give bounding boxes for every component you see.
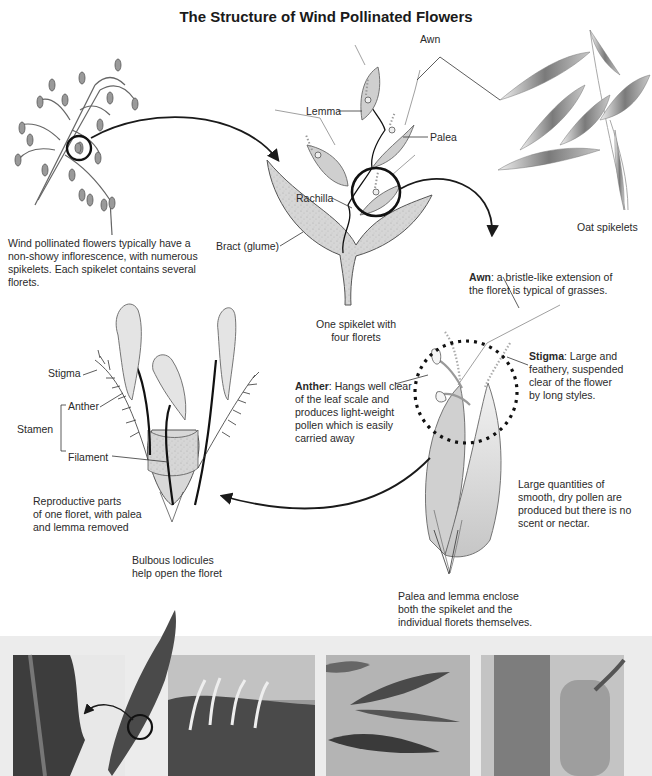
label-anther: Anther [68,400,99,412]
caption-inflorescence: Wind pollinated flowers typically have a… [8,237,198,289]
floret-illustration [415,305,560,573]
label-lemma: Lemma [306,105,341,117]
caption-palea-lemma: Palea and lemma enclose both the spikele… [398,590,538,629]
label-awn: Awn [420,33,440,45]
desc-awn: : a bristle-like extension of the floret… [469,271,612,296]
arrow-floret-to-reproductive-parts [222,458,430,509]
term-awn: Awn [469,271,491,283]
photo-pampas-grass [168,655,315,776]
oat-spikelets-illustration [498,30,650,210]
caption-stigma: Stigma: Large and feathery, suspended cl… [529,350,624,402]
caption-reproductive-line-2: of one floret, with palea [33,508,153,521]
caption-spikelet-line-1: One spikelet with [306,318,406,331]
caption-pollen: Large quantities of smooth, dry pollen a… [518,478,638,530]
caption-spikelet: One spikelet with four florets [306,318,406,344]
bract-shape [267,160,432,305]
label-palea: Palea [430,131,457,143]
inflorescence-illustration [15,59,138,235]
label-filament: Filament [68,451,108,463]
term-anther: Anther [295,380,329,392]
label-oat-spikelets: Oat spikelets [577,221,638,233]
label-stigma: Stigma [48,367,81,379]
caption-reproductive-line-1: Reproductive parts [33,495,153,508]
photo-catkins [481,655,624,776]
term-stigma: Stigma [529,350,564,362]
label-rachilla: Rachilla [296,192,333,204]
label-bract: Bract (glume) [216,240,279,252]
label-stamen: Stamen [17,423,53,435]
caption-lodicules-line-2: help open the floret [132,567,252,580]
arrow-inflorescence-to-spikelet [91,117,278,160]
caption-lodicules-line-1: Bulbous lodicules [132,554,252,567]
caption-reproductive-line-3: and lemma removed [33,521,153,534]
photo-oat-spikelet [326,655,470,776]
reproductive-parts-illustration [95,304,259,522]
photo-grass-spike-closeup [13,655,125,776]
caption-awn: Awn: a bristle-like extension of the flo… [469,271,619,297]
caption-spikelet-line-2: four florets [306,331,406,344]
caption-anther: Anther: Hangs well clear of the leaf sca… [295,380,415,445]
caption-reproductive: Reproductive parts of one floret, with p… [33,495,153,534]
spikelet-illustration [267,45,432,305]
caption-lodicules: Bulbous lodicules help open the floret [132,554,252,580]
